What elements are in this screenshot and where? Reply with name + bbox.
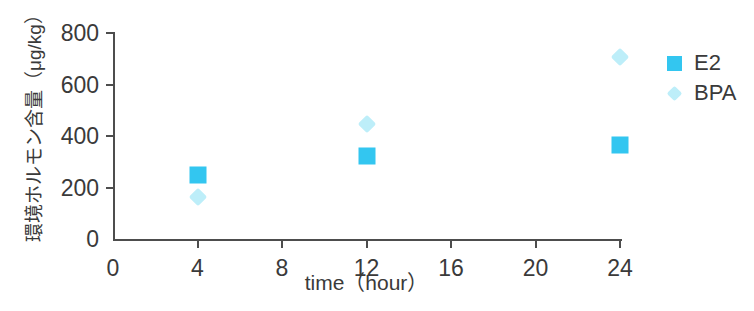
legend-item-label: E2 xyxy=(694,50,721,76)
y-axis-tick-label: 0 xyxy=(86,226,99,253)
y-axis-tick xyxy=(106,84,115,86)
data-point-e2 xyxy=(358,148,375,165)
y-axis-tick-label: 800 xyxy=(61,20,99,47)
data-point-bpa xyxy=(188,188,206,206)
plot-area: 0200400600800 04812162024 xyxy=(113,33,620,240)
x-axis-line xyxy=(113,239,622,241)
data-point-e2 xyxy=(612,137,629,154)
square-marker-icon xyxy=(663,56,685,71)
x-axis-tick xyxy=(619,239,621,248)
x-axis-tick xyxy=(366,239,368,248)
y-axis-tick-label: 200 xyxy=(61,174,99,201)
chart-legend: E2BPA xyxy=(663,48,736,108)
y-axis-tick xyxy=(106,187,115,189)
data-point-e2 xyxy=(189,166,206,183)
y-axis-tick-label: 600 xyxy=(61,71,99,98)
y-axis-tick xyxy=(106,135,115,137)
x-axis-tick xyxy=(535,239,537,248)
x-axis-title: time（hour） xyxy=(113,266,620,296)
legend-item-label: BPA xyxy=(694,80,736,106)
x-axis-tick xyxy=(281,239,283,248)
y-axis-tick xyxy=(106,32,115,34)
y-axis-title: 環境ホルモン含量（μg/kg） xyxy=(19,0,46,249)
diamond-marker-icon xyxy=(663,88,685,99)
x-axis-tick xyxy=(197,239,199,248)
legend-item-e2[interactable]: E2 xyxy=(663,48,736,78)
chart-figure: 環境ホルモン含量（μg/kg） 0200400600800 0481216202… xyxy=(0,0,754,311)
y-axis-line xyxy=(113,33,115,241)
x-axis-tick xyxy=(450,239,452,248)
y-axis-tick-label: 400 xyxy=(61,123,99,150)
legend-item-bpa[interactable]: BPA xyxy=(663,78,736,108)
data-point-bpa xyxy=(357,114,375,132)
data-point-bpa xyxy=(611,48,629,66)
